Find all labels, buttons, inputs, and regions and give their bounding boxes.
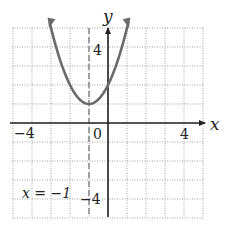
tick-label-y-4: 4 [93,42,102,58]
annotation-symmetry-label: x = −1 [22,185,71,201]
tick-label-x-4: 4 [180,126,189,142]
graph: x y −4 0 4 4 −4 x = −1 [0,0,231,232]
tick-label-y-neg4: −4 [80,191,101,207]
x-axis-label: x [210,114,220,134]
tick-label-x-neg4: −4 [14,125,35,141]
y-axis-label: y [102,6,113,26]
tick-label-x-0: 0 [93,126,102,142]
